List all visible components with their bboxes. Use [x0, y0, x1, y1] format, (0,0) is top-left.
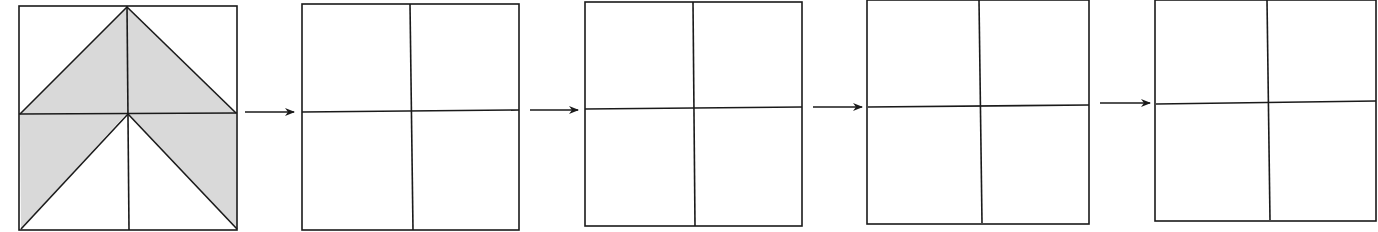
grid-outline	[1155, 0, 1376, 221]
grid-outline	[867, 0, 1089, 224]
grid-vertical-divider	[1267, 0, 1270, 220]
grid-vertical-divider	[693, 2, 695, 226]
empty-grid-3	[867, 0, 1089, 224]
source-square	[19, 6, 237, 230]
empty-grid-1	[302, 4, 519, 230]
pattern-sequence-diagram	[0, 0, 1378, 232]
empty-grid-2	[585, 2, 802, 226]
grid-horizontal-divider	[868, 105, 1089, 107]
grid-vertical-divider	[410, 4, 413, 230]
grid-horizontal-divider	[1156, 101, 1376, 104]
horizontal-divider	[19, 113, 237, 114]
grid-horizontal-divider	[302, 110, 519, 112]
lower-left-shade	[20, 113, 127, 229]
empty-grid-4	[1155, 0, 1376, 221]
grid-horizontal-divider	[585, 107, 802, 109]
grid-vertical-divider	[979, 0, 982, 223]
